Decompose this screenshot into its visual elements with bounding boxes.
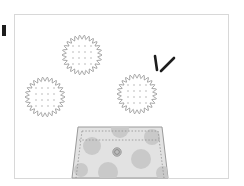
- top-cookie-dot: [84, 51, 86, 53]
- right-cookie-dot: [127, 102, 129, 104]
- cookie-jar-group: [72, 120, 170, 182]
- left-cookie-dot: [47, 93, 49, 95]
- right-cookie-dot: [139, 102, 141, 104]
- right-cookie-dot: [145, 84, 147, 86]
- left-cookie-dot: [53, 105, 55, 107]
- cookie-scene-svg: [0, 0, 244, 186]
- jar-dot: [131, 149, 151, 169]
- top-cookie-dot: [78, 57, 80, 59]
- top-cookie-dot: [90, 63, 92, 65]
- left-cookie-dot: [47, 99, 49, 101]
- left-cookie-dot: [35, 87, 37, 89]
- right-cookie-dot: [139, 84, 141, 86]
- top-cookie-dot: [84, 63, 86, 65]
- top-cookie-dot: [72, 45, 74, 47]
- right-cookie-dot: [127, 90, 129, 92]
- right-cookie-dot: [133, 102, 135, 104]
- jar-button: [113, 148, 121, 156]
- right-cookie-dot: [127, 84, 129, 86]
- illustration-canvas: Cookies and cookie jar illustration: [0, 0, 244, 186]
- top-cookie-dot: [78, 51, 80, 53]
- corner-mark: [2, 25, 6, 36]
- left-cookie-dot: [35, 105, 37, 107]
- top-cookie-dot: [90, 57, 92, 59]
- left-cookie-dot: [47, 105, 49, 107]
- top-cookie-dot: [90, 51, 92, 53]
- right-cookie-dot: [133, 96, 135, 98]
- left-cookie-dot: [53, 99, 55, 101]
- top-cookie-dot: [72, 51, 74, 53]
- right-cookie-dot: [127, 96, 129, 98]
- right-cookie-dot: [145, 96, 147, 98]
- left-cookie-dot: [41, 93, 43, 95]
- right-cookie-dot: [145, 90, 147, 92]
- top-cookie-dot: [90, 45, 92, 47]
- right-cookie-dot: [139, 90, 141, 92]
- left-cookie-dot: [53, 93, 55, 95]
- right-cookie-dot: [145, 102, 147, 104]
- left-cookie-dot: [41, 87, 43, 89]
- left-cookie-dot: [41, 99, 43, 101]
- top-cookie-dot: [72, 63, 74, 65]
- right-cookie-dot: [133, 84, 135, 86]
- left-cookie-dot: [53, 87, 55, 89]
- top-cookie-dot: [78, 45, 80, 47]
- right-cookie-dot: [133, 90, 135, 92]
- left-cookie-dot: [35, 93, 37, 95]
- right-cookie-dot: [139, 96, 141, 98]
- left-cookie-dot: [41, 105, 43, 107]
- top-cookie-dot: [78, 63, 80, 65]
- top-cookie-dot: [72, 57, 74, 59]
- top-cookie-dot: [84, 57, 86, 59]
- left-cookie-dot: [47, 87, 49, 89]
- left-cookie-dot: [35, 99, 37, 101]
- top-cookie-dot: [84, 45, 86, 47]
